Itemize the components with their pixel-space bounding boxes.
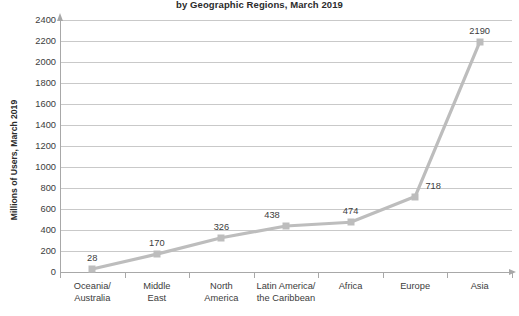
gridline-400 (60, 230, 512, 231)
gridline-600 (60, 209, 512, 210)
plot-area (60, 20, 512, 272)
x-category-label-5: Europe (383, 281, 448, 293)
x-tick-2 (189, 272, 190, 278)
data-marker-4[interactable] (347, 219, 354, 226)
data-label-2: 326 (214, 222, 230, 232)
data-label-3: 438 (264, 210, 280, 220)
x-tick-1 (125, 272, 126, 278)
gridline-800 (60, 188, 512, 189)
y-axis-arrow-icon (57, 13, 63, 21)
x-tick-4 (318, 272, 319, 278)
x-category-line: East (125, 293, 190, 305)
x-category-label-6: Asia (447, 281, 512, 293)
gridline-1200 (60, 146, 512, 147)
x-category-label-2: NorthAmerica (189, 281, 254, 304)
x-category-line: Africa (318, 281, 383, 293)
data-marker-6[interactable] (476, 39, 483, 46)
x-category-label-0: Oceania/Australia (60, 281, 125, 304)
gridline-2200 (60, 41, 512, 42)
x-tick-3 (254, 272, 255, 278)
x-category-label-1: MiddleEast (125, 281, 190, 304)
x-category-line: Australia (60, 293, 125, 305)
gridline-200 (60, 251, 512, 252)
x-category-line: Europe (383, 281, 448, 293)
gridline-1000 (60, 167, 512, 168)
x-category-line: America (189, 293, 254, 305)
y-tick-label-1600: 1600 (2, 99, 56, 109)
data-label-4: 474 (343, 206, 359, 216)
gridline-1600 (60, 104, 512, 105)
y-tick-label-2000: 2000 (2, 57, 56, 67)
x-category-line: the Caribbean (254, 293, 319, 305)
x-tick-0 (60, 272, 61, 278)
gridline-2000 (60, 62, 512, 63)
y-tick-label-1400: 1400 (2, 120, 56, 130)
x-category-label-4: Africa (318, 281, 383, 293)
y-axis-line (60, 20, 61, 273)
gridline-1400 (60, 125, 512, 126)
y-tick-label-600: 600 (2, 204, 56, 214)
x-category-line: Latin America/ (254, 281, 319, 293)
x-category-line: Oceania/ (60, 281, 125, 293)
gridline-1800 (60, 83, 512, 84)
x-category-line: Middle (125, 281, 190, 293)
gridline-2400 (60, 20, 512, 21)
x-category-line: Asia (447, 281, 512, 293)
y-tick-label-1000: 1000 (2, 162, 56, 172)
data-label-6: 2190 (469, 26, 490, 36)
data-marker-0[interactable] (89, 266, 96, 273)
data-marker-5[interactable] (412, 193, 419, 200)
x-tick-7 (512, 272, 513, 278)
y-tick-label-0: 0 (2, 267, 56, 277)
data-marker-2[interactable] (218, 234, 225, 241)
x-tick-6 (447, 272, 448, 278)
y-tick-label-400: 400 (2, 225, 56, 235)
data-label-5: 718 (425, 181, 441, 191)
data-marker-3[interactable] (283, 223, 290, 230)
data-marker-1[interactable] (153, 251, 160, 258)
x-category-label-3: Latin America/the Caribbean (254, 281, 319, 304)
data-label-0: 28 (87, 253, 97, 263)
chart-title: by Geographic Regions, March 2019 (0, 0, 519, 10)
y-tick-label-200: 200 (2, 246, 56, 256)
x-axis-line (60, 272, 512, 273)
y-tick-label-1200: 1200 (2, 141, 56, 151)
y-tick-label-800: 800 (2, 183, 56, 193)
y-tick-label-2200: 2200 (2, 36, 56, 46)
data-label-1: 170 (149, 238, 165, 248)
x-category-line: North (189, 281, 254, 293)
x-tick-5 (383, 272, 384, 278)
y-tick-label-2400: 2400 (2, 15, 56, 25)
y-tick-label-1800: 1800 (2, 78, 56, 88)
y-axis-tick-labels: 2400220020001800160014001200100080060040… (0, 0, 56, 316)
